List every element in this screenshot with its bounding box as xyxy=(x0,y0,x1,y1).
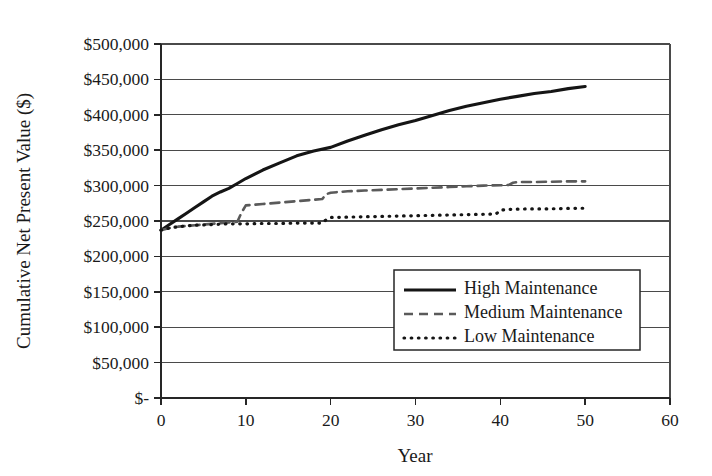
legend-label: High Maintenance xyxy=(464,278,597,298)
y-axis-title: Cumulative Net Present Value ($) xyxy=(13,93,35,349)
y-tick-label: $300,000 xyxy=(83,176,149,196)
x-tick-label: 40 xyxy=(492,410,510,430)
x-axis-tick-labels: 0102030405060 xyxy=(157,410,679,430)
y-axis-tickmarks xyxy=(154,44,161,398)
y-tick-label: $- xyxy=(134,388,149,408)
x-tick-label: 50 xyxy=(576,410,594,430)
x-axis-tickmarks xyxy=(161,398,670,405)
series-line-solid xyxy=(161,86,585,230)
y-axis-tick-labels: $-$50,000$100,000$150,000$200,000$250,00… xyxy=(83,34,149,408)
y-tick-label: $250,000 xyxy=(83,211,149,231)
legend: High MaintenanceMedium MaintenanceLow Ma… xyxy=(394,270,640,350)
series-group xyxy=(161,86,585,230)
y-tick-label: $50,000 xyxy=(92,353,149,373)
y-tick-label: $150,000 xyxy=(83,282,149,302)
x-axis-title: Year xyxy=(397,445,433,466)
legend-label: Medium Maintenance xyxy=(464,302,622,322)
x-tick-label: 10 xyxy=(237,410,255,430)
legend-label: Low Maintenance xyxy=(464,326,594,346)
x-tick-label: 60 xyxy=(661,410,679,430)
y-tick-label: $350,000 xyxy=(83,140,149,160)
x-tick-label: 30 xyxy=(407,410,425,430)
chart-canvas: $-$50,000$100,000$150,000$200,000$250,00… xyxy=(0,0,712,476)
y-tick-label: $450,000 xyxy=(83,69,149,89)
series-line-dotted xyxy=(161,208,585,230)
y-tick-label: $400,000 xyxy=(83,105,149,125)
chart-container: $-$50,000$100,000$150,000$200,000$250,00… xyxy=(0,0,712,476)
y-tick-label: $100,000 xyxy=(83,317,149,337)
x-tick-label: 20 xyxy=(322,410,340,430)
x-tick-label: 0 xyxy=(157,410,166,430)
y-tick-label: $200,000 xyxy=(83,246,149,266)
y-tick-label: $500,000 xyxy=(83,34,149,54)
